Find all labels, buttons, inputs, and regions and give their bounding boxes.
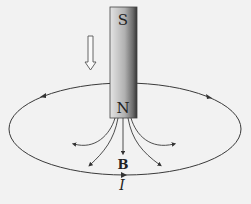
- field-label-B: B: [118, 157, 129, 172]
- diagram-canvas: S N B I: [0, 0, 251, 204]
- south-pole-label: S: [118, 11, 128, 29]
- north-pole-label: N: [116, 99, 129, 117]
- current-label-I: I: [118, 177, 125, 193]
- magnet-loop-diagram: S N B I: [0, 0, 251, 204]
- motion-arrow-down-icon: [85, 36, 96, 70]
- bar-magnet: S N: [110, 7, 137, 118]
